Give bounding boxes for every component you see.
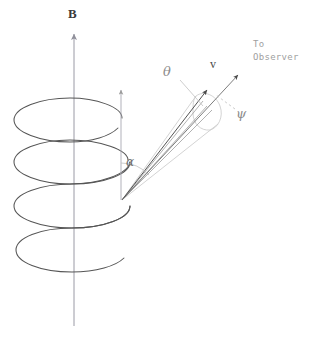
observer-arrow <box>122 75 238 200</box>
helix-turn-1 <box>14 98 122 142</box>
emission-ray-1 <box>122 101 203 200</box>
physics-diagram: B α θ v ψ To Observer <box>0 0 317 339</box>
helix-trajectory <box>14 98 130 272</box>
velocity-vector <box>122 90 207 200</box>
psi-leader-line <box>216 95 235 109</box>
cone-edge-upper <box>122 96 196 200</box>
helix-turn-4 <box>16 206 130 272</box>
velocity-arrow <box>122 90 207 200</box>
cone-edge-lower <box>122 124 218 200</box>
line-of-sight <box>122 75 238 200</box>
diagram-canvas <box>0 0 317 339</box>
label-leader-lines <box>180 80 235 109</box>
helix-turn-3 <box>14 162 130 228</box>
emission-ray-2 <box>122 110 212 200</box>
